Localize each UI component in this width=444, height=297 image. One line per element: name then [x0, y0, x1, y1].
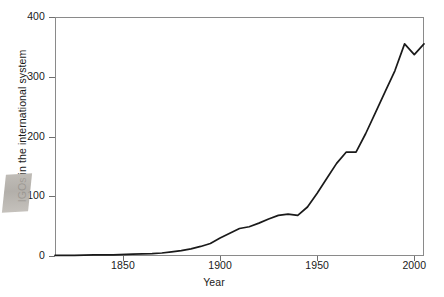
y-tick-mark [49, 17, 55, 18]
y-tick-label: 0 [0, 250, 45, 261]
series-polyline [55, 44, 424, 256]
chart-figure: 0100200300400 1850190019502000 IGOs in t… [0, 0, 444, 297]
y-tick-mark [49, 137, 55, 138]
x-tick-label: 1950 [292, 260, 342, 271]
y-axis-title: IGOs in the international system [16, 26, 28, 226]
x-tick-label: 2000 [389, 260, 439, 271]
x-axis-title-text: Year [203, 276, 225, 288]
y-tick-mark [49, 77, 55, 78]
x-tick-label: 1900 [195, 260, 245, 271]
x-tick-label: 1850 [98, 260, 148, 271]
y-tick-mark [49, 256, 55, 257]
x-axis-title: Year [0, 276, 444, 288]
y-tick-mark [49, 196, 55, 197]
data-series-line [55, 17, 424, 256]
y-tick-label: 400 [0, 11, 45, 22]
